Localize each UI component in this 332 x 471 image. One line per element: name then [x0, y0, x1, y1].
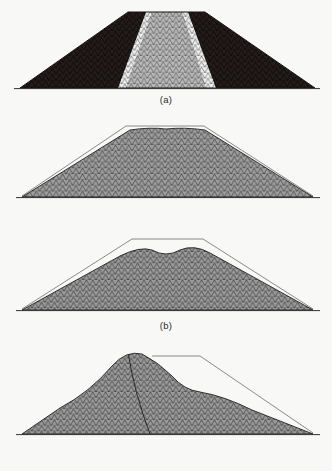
mesh-triangles — [0, 339, 332, 471]
panel-d-large-deformation: (d) — [0, 339, 332, 471]
panel-c-body — [0, 226, 332, 339]
panel-d-body — [0, 339, 332, 471]
panel-caption-a: (a) — [0, 94, 332, 105]
panel-b-svg — [0, 113, 332, 226]
panel-b-small-settlement: (b) — [0, 113, 332, 226]
panel-c-moderate-settlement: (c) — [0, 226, 332, 339]
panel-c-svg — [0, 226, 332, 339]
mesh-triangles — [0, 226, 332, 339]
panel-a-initial-mesh: (a) — [0, 0, 332, 113]
panel-d-svg — [0, 339, 332, 471]
mesh-triangles — [0, 113, 332, 226]
figure-panels: (a) (b) — [0, 0, 332, 471]
panel-b-body — [0, 113, 332, 226]
